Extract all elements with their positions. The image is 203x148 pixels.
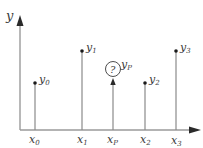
point-dot xyxy=(80,49,84,53)
y-axis: y xyxy=(5,8,24,130)
x-axis-arrow-icon xyxy=(189,127,201,134)
query-point: ? yP xP xyxy=(106,58,133,147)
y-axis-arrow-icon xyxy=(17,15,24,26)
data-point-1: y1 x1 xyxy=(77,41,97,147)
x3-label: x3 xyxy=(171,134,182,148)
x2-label: x2 xyxy=(140,133,151,147)
yP-label: yP xyxy=(120,58,132,72)
data-point-3: y3 x3 xyxy=(171,41,191,148)
interpolation-diagram: y y0 x0 y1 x1 ? yP xP y2 x2 y3 xyxy=(0,0,203,148)
y1-label: y1 xyxy=(85,41,97,55)
y2-label: y2 xyxy=(148,73,160,87)
query-arrow-icon xyxy=(110,78,115,85)
point-dot xyxy=(174,49,178,53)
point-dot xyxy=(33,81,37,85)
data-point-2: y2 x2 xyxy=(140,73,160,147)
data-point-0: y0 x0 xyxy=(29,73,50,147)
xP-label: xP xyxy=(107,133,118,147)
unknown-marker: ? xyxy=(110,64,116,75)
y3-label: y3 xyxy=(179,41,191,55)
x1-label: x1 xyxy=(77,133,88,147)
y0-label: y0 xyxy=(38,73,50,87)
x0-label: x0 xyxy=(29,133,40,147)
point-dot xyxy=(143,81,147,85)
y-axis-label: y xyxy=(5,8,14,23)
